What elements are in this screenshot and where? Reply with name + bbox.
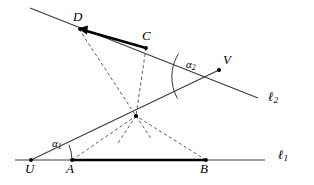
- point-label-A: A: [66, 162, 74, 175]
- dashed-center-extension-lower-left: [118, 116, 136, 143]
- dashed-center-extension-lower-right: [136, 116, 152, 140]
- line-label-l2-subscript: 2: [273, 95, 278, 105]
- line-label-l1: ℓ1: [278, 148, 288, 163]
- angle-label-alpha-2: α2: [186, 59, 196, 72]
- angle-label-alpha-1-subscript: 1: [58, 142, 62, 151]
- segment-DC-thick: [83, 30, 146, 48]
- angle-label-alpha-2-subscript: 2: [192, 63, 196, 72]
- point-dot-D: [78, 27, 82, 31]
- point-label-D: D: [73, 10, 82, 23]
- geometry-figure: U A B D C V ℓ1 ℓ2 α1 α2: [0, 0, 314, 185]
- dashed-B-center: [136, 116, 206, 160]
- point-dot-C: [144, 46, 148, 50]
- point-dot-center: [134, 114, 138, 118]
- angle-arc-alpha-1: [69, 145, 72, 160]
- dashed-A-center: [72, 116, 136, 160]
- line-label-l2: ℓ2: [268, 90, 278, 105]
- point-label-V: V: [223, 53, 231, 66]
- point-label-C: C: [142, 29, 151, 42]
- figure-canvas: [0, 0, 314, 185]
- point-label-B: B: [200, 162, 208, 175]
- point-dot-V: [217, 68, 221, 72]
- point-label-U: U: [25, 162, 34, 175]
- line-label-l1-subscript: 1: [283, 153, 288, 163]
- angle-label-alpha-1: α1: [52, 138, 62, 151]
